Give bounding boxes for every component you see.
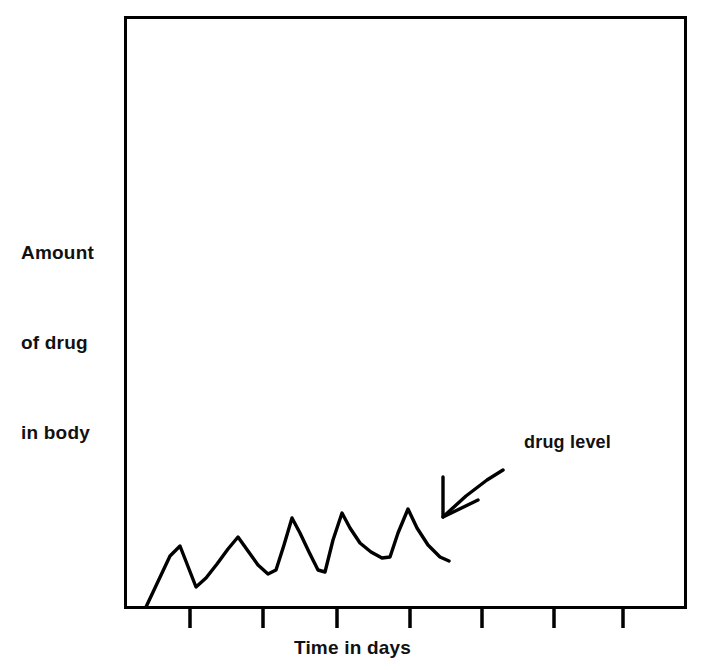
x-axis-label: Time in days [0, 637, 705, 659]
y-axis-label-line-2: of drug [21, 328, 94, 358]
y-axis-label-line-3: in body [21, 418, 94, 448]
y-axis-label-line-1: Amount [21, 238, 94, 268]
annotation-label-drug-level: drug level [524, 432, 611, 453]
y-axis-label: Amount of drug in body [21, 178, 94, 508]
x-axis-ticks [190, 608, 623, 628]
chart-figure: Amount of drug in body Time in days drug… [0, 0, 705, 670]
chart-canvas [0, 0, 705, 670]
